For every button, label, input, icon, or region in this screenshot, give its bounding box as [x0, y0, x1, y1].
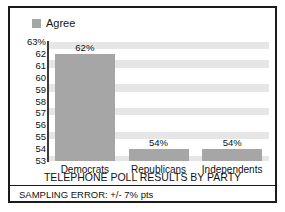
bar-value-label: 54% — [129, 138, 189, 148]
bar-value-label: 54% — [202, 138, 262, 148]
y-axis-tick-labels: 63%62616059585756555453 — [16, 38, 46, 164]
bar-value-label: 62% — [55, 43, 115, 53]
legend-label-agree: Agree — [46, 18, 75, 29]
category-label-independents: Independents — [187, 164, 277, 175]
y-axis-tick-label: 55 — [35, 132, 46, 142]
y-axis-tick-label: 56 — [35, 120, 46, 130]
bar-republicans — [129, 149, 189, 161]
y-axis-tick-label: 59 — [35, 85, 46, 95]
y-axis-tick-label: 63% — [27, 37, 46, 47]
y-axis-tick-label: 54 — [35, 144, 46, 154]
y-axis-tick-label: 60 — [35, 73, 46, 83]
chart-legend: Agree — [32, 16, 75, 30]
title-divider — [10, 185, 275, 186]
y-axis-tick-label: 62 — [35, 49, 46, 59]
bar-independents — [202, 149, 262, 161]
legend-swatch-agree-icon — [32, 19, 41, 28]
y-axis-tick-label: 57 — [35, 108, 46, 118]
y-axis-line — [47, 41, 49, 162]
bar-democrats — [55, 54, 115, 161]
y-axis-tick-label: 58 — [35, 97, 46, 107]
y-axis-tick-label: 61 — [35, 61, 46, 71]
sampling-error-note: SAMPLING ERROR: +/- 7% pts — [19, 189, 153, 200]
chart-container: Agree 63%62616059585756555453 TELEPHONE … — [8, 6, 277, 203]
